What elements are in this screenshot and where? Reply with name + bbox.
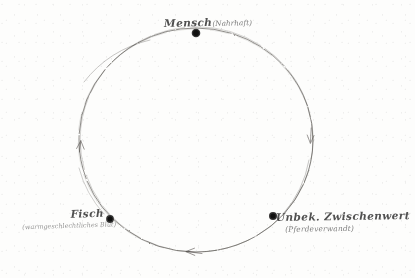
cycle-sketch [0, 0, 415, 278]
node-label-mensch: Mensch(Nahrhaft) [164, 12, 252, 31]
node-label-unbek: Unbek. Zwischenwert (Pferdeverwandt) [276, 206, 410, 233]
node-label-mensch-paren: (Nahrhaft) [212, 18, 252, 28]
node-label-mensch-text: Mensch [164, 16, 213, 29]
arrow-left [77, 141, 85, 153]
node-label-fisch: Fisch (warmgeschlechtliches Blut) [22, 204, 107, 231]
diagram-canvas: Mensch(Nahrhaft) Fisch (warmgeschlechtli… [0, 0, 415, 278]
circle-dark-accents [79, 40, 309, 214]
node-label-unbek-text: Unbek. Zwischenwert [276, 209, 410, 223]
node-label-fisch-text: Fisch [70, 207, 104, 220]
